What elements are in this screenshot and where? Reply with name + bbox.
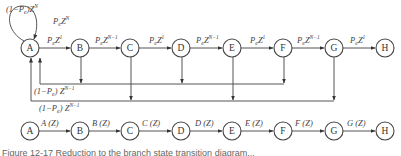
svg-text:A: A	[27, 43, 34, 53]
node-g-bottom: G	[325, 122, 343, 140]
edge-label-g-h: PeZ1	[349, 34, 366, 46]
bottom-row-labels: A (Z) B (Z) C (Z) D (Z) E (Z) F (Z) G (Z…	[40, 118, 366, 128]
self-loop-label: (1−Pe)ZN	[6, 3, 38, 15]
svg-text:D: D	[178, 126, 185, 136]
node-e-bottom: E	[223, 122, 241, 140]
svg-text:B: B	[77, 126, 83, 136]
svg-text:E: E	[229, 126, 235, 136]
reduced-label-a: A (Z)	[40, 118, 59, 128]
reduced-label-f: F (Z)	[294, 118, 313, 128]
node-f-bottom: F	[274, 122, 292, 140]
skip-label: PeZN	[52, 15, 70, 27]
node-b-top: B	[71, 39, 89, 57]
node-g-top: G	[325, 39, 343, 57]
svg-text:B: B	[77, 43, 83, 53]
svg-text:C: C	[127, 126, 133, 136]
node-h-top: H	[376, 39, 394, 57]
edge-label-f-g: PeZN−1	[296, 34, 320, 46]
node-c-bottom: C	[121, 122, 139, 140]
reduced-label-g: G (Z)	[347, 118, 366, 128]
node-f-top: F	[274, 39, 292, 57]
edge-label-a-b: PeZ1	[46, 34, 63, 46]
edge-label-b-c: PeZN−1	[94, 34, 118, 46]
state-transition-diagram: (1−Pe)ZN PeZN PeZ1 PeZN−1 PeZ1 PeZN−1 Pe…	[0, 0, 401, 156]
svg-text:D: D	[178, 43, 185, 53]
return-label-upper: (1−Pe) ZN−1	[34, 85, 75, 97]
svg-text:F: F	[280, 126, 285, 136]
reduced-label-c: C (Z)	[142, 118, 160, 128]
return-label-lower: (1−Pe) ZN−1	[39, 102, 80, 114]
node-a-top: A	[21, 39, 39, 57]
node-h-bottom: H	[376, 122, 394, 140]
svg-text:H: H	[382, 43, 389, 53]
svg-text:E: E	[229, 43, 235, 53]
edge-label-e-f: PeZ1	[249, 34, 266, 46]
node-d-bottom: D	[172, 122, 190, 140]
node-b-bottom: B	[71, 122, 89, 140]
figure-caption: Figure 12-17 Reduction to the branch sta…	[2, 148, 255, 156]
node-d-top: D	[172, 39, 190, 57]
reduced-label-b: B (Z)	[92, 118, 110, 128]
reduced-label-e: E (Z)	[244, 118, 263, 128]
reduced-label-d: D (Z)	[194, 118, 214, 128]
svg-text:H: H	[382, 126, 389, 136]
edge-label-c-d: PeZ1	[148, 34, 165, 46]
svg-text:G: G	[331, 126, 338, 136]
svg-text:C: C	[127, 43, 133, 53]
svg-text:G: G	[331, 43, 338, 53]
node-c-top: C	[121, 39, 139, 57]
svg-text:A: A	[27, 126, 34, 136]
node-a-bottom: A	[21, 122, 39, 140]
edge-label-d-e: PeZN−1	[195, 34, 219, 46]
svg-text:F: F	[280, 43, 285, 53]
return-line-upper	[40, 58, 284, 84]
top-row-labels: (1−Pe)ZN PeZN PeZ1 PeZN−1 PeZ1 PeZN−1 Pe…	[6, 3, 366, 114]
node-e-top: E	[223, 39, 241, 57]
